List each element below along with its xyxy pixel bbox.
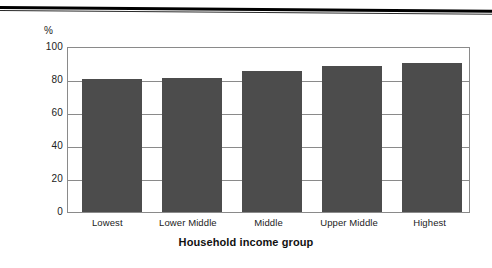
y-tick-label-0: 0 bbox=[33, 207, 63, 217]
x-label-upper-middle: Upper Middle bbox=[309, 216, 390, 232]
x-axis-title: Household income group bbox=[0, 236, 492, 248]
x-label-middle: Middle bbox=[228, 216, 309, 232]
y-tick-label-40: 40 bbox=[33, 141, 63, 151]
y-tick-label-100: 100 bbox=[33, 42, 63, 52]
bars-layer bbox=[68, 48, 469, 212]
bar-upper-middle bbox=[322, 66, 382, 212]
bar-middle bbox=[242, 71, 302, 212]
x-axis-category-labels: Lowest Lower Middle Middle Upper Middle … bbox=[67, 216, 470, 232]
bar-chart-figure: % 100 80 60 40 20 0 Lowest Lower Middle … bbox=[0, 0, 492, 268]
bar-lowest bbox=[82, 79, 142, 212]
bar-lower-middle bbox=[162, 78, 222, 212]
y-tick-label-60: 60 bbox=[33, 108, 63, 118]
x-label-highest: Highest bbox=[389, 216, 470, 232]
plot-area bbox=[67, 47, 470, 213]
y-tick-label-20: 20 bbox=[33, 174, 63, 184]
x-label-lower-middle: Lower Middle bbox=[148, 216, 229, 232]
y-axis-unit-label: % bbox=[44, 25, 53, 36]
bar-highest bbox=[402, 63, 462, 212]
x-label-lowest: Lowest bbox=[67, 216, 148, 232]
y-tick-label-80: 80 bbox=[33, 75, 63, 85]
